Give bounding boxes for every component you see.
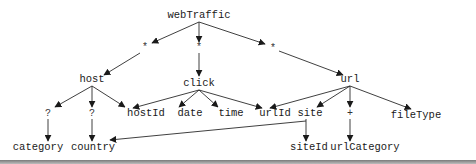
- edge-url-to-fileType: [350, 86, 411, 109]
- edge-root-to-star_host: [152, 22, 199, 43]
- node-country: country: [71, 141, 115, 153]
- node-category: category: [13, 141, 63, 153]
- node-site: site: [297, 107, 322, 119]
- node-plus-urlCategory: +: [347, 108, 353, 119]
- node-urlCategory: urlCategory: [330, 141, 399, 153]
- node-time: time: [218, 107, 243, 119]
- edge-host-to-q_category: [55, 86, 92, 107]
- node-url: url: [341, 73, 360, 85]
- node-optional-category: ?: [45, 108, 51, 119]
- node-star-host: *: [142, 42, 148, 53]
- node-date: date: [177, 107, 202, 119]
- node-hostId: hostId: [127, 107, 165, 119]
- node-click: click: [183, 77, 215, 89]
- node-siteId: siteId: [290, 141, 328, 153]
- edge-star_host-to-host: [104, 53, 140, 75]
- node-group: webTraffic * * * host click url ? ? host…: [13, 9, 441, 153]
- edge-url-to-site: [317, 86, 350, 107]
- edge-url-to-urlId: [270, 86, 350, 108]
- edge-root-to-star_url: [199, 22, 265, 44]
- edge-site-to-country: [110, 121, 306, 140]
- node-star-click: *: [196, 42, 202, 53]
- schema-tree-diagram: webTraffic * * * host click url ? ? host…: [0, 0, 476, 164]
- node-urlId: urlId: [259, 107, 291, 119]
- node-optional-country: ?: [89, 108, 95, 119]
- edge-host-to-hostId: [92, 86, 125, 107]
- node-star-url: *: [270, 43, 276, 54]
- bottom-divider: [0, 160, 476, 164]
- node-fileType: fileType: [391, 109, 441, 121]
- node-host: host: [79, 73, 104, 85]
- diagram-canvas: webTraffic * * * host click url ? ? host…: [0, 0, 476, 164]
- node-webTraffic: webTraffic: [167, 9, 230, 21]
- edge-star_url-to-url: [279, 51, 343, 75]
